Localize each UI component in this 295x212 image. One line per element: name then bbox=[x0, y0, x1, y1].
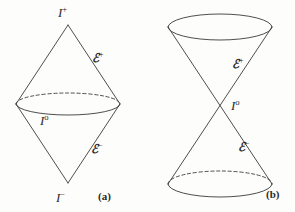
label-a-bottom-apex: I− bbox=[56, 190, 65, 204]
panel-a-caption: (a) bbox=[98, 191, 111, 202]
label-b-scri-plus-sup: + bbox=[239, 56, 243, 65]
label-a-bottom-apex-sup: − bbox=[60, 189, 65, 199]
label-b-scri-plus-base: ℰ bbox=[232, 57, 239, 71]
panel-a-upper-cone-left-edge bbox=[16, 25, 68, 104]
label-a-scri-minus: ℰ− bbox=[91, 142, 102, 155]
panel-b-caption: (b) bbox=[266, 189, 279, 200]
label-a-equator: Io bbox=[40, 113, 49, 127]
panel-b-bottom-rim-back-arc bbox=[168, 171, 272, 184]
panel-b-diagram bbox=[168, 14, 272, 197]
label-a-scri-minus-base: ℰ bbox=[91, 142, 98, 156]
figure-container: I+ ℰ+ Io ℰ− I− (a) ℰ+ Io ℰ− (b) bbox=[0, 0, 295, 212]
label-b-scri-minus-base: ℰ bbox=[238, 140, 245, 154]
label-b-waist-sup: o bbox=[235, 97, 239, 107]
label-a-scri-plus: ℰ+ bbox=[92, 51, 103, 64]
label-a-scri-plus-base: ℰ bbox=[92, 51, 99, 65]
label-b-scri-plus: ℰ+ bbox=[232, 57, 243, 70]
panel-b-bottom-rim-front-arc bbox=[168, 184, 272, 197]
label-b-scri-minus: ℰ− bbox=[238, 140, 249, 153]
figure-svg bbox=[0, 0, 295, 212]
label-a-top-apex-sup: + bbox=[62, 4, 67, 14]
panel-a-equator-front-arc bbox=[16, 104, 120, 115]
label-a-top-apex: I+ bbox=[58, 5, 67, 19]
label-a-scri-minus-sup: − bbox=[98, 141, 102, 150]
panel-a-diagram bbox=[16, 25, 120, 183]
panel-a-equator-back-arc bbox=[16, 93, 120, 104]
label-b-scri-minus-sup: − bbox=[245, 139, 249, 148]
label-b-waist: Io bbox=[231, 98, 240, 112]
label-a-scri-plus-sup: + bbox=[99, 50, 103, 59]
label-a-equator-sup: o bbox=[44, 112, 48, 122]
panel-b-top-rim-front-arc bbox=[168, 27, 272, 40]
panel-b-top-rim-back-arc bbox=[168, 14, 272, 27]
